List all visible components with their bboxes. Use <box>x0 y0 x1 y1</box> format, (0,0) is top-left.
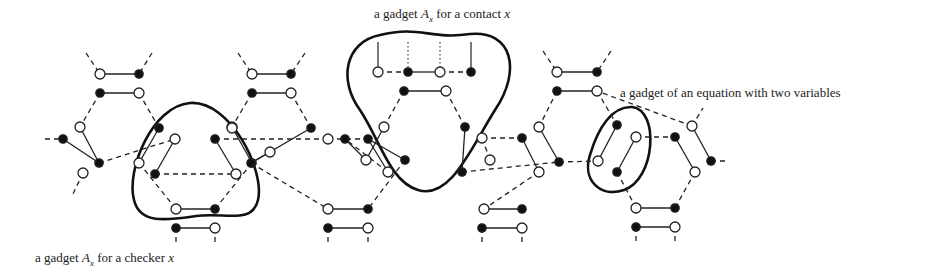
filled-node <box>458 168 466 176</box>
filled-node <box>613 168 621 176</box>
open-node <box>687 121 697 131</box>
filled-node <box>59 135 67 143</box>
dashed-edge <box>232 93 252 127</box>
filled-node <box>248 89 256 97</box>
open-node <box>485 155 495 165</box>
filled-node <box>518 134 526 142</box>
open-node <box>247 69 257 79</box>
variable-symbol: x <box>168 250 174 265</box>
variable-symbol: x <box>504 6 510 21</box>
open-node <box>479 204 489 214</box>
solid-edge <box>155 139 175 174</box>
open-node <box>134 88 144 98</box>
solid-edge <box>63 139 99 163</box>
solid-edge <box>462 127 465 172</box>
solid-edges <box>63 42 711 228</box>
open-node <box>78 168 88 178</box>
open-node <box>534 122 544 132</box>
filled-node <box>671 133 679 141</box>
label-text: a gadget of an equation with two variabl… <box>620 85 841 100</box>
filled-node <box>461 123 469 131</box>
filled-node <box>324 224 332 232</box>
dashed-edge <box>446 91 465 127</box>
checker-loop <box>133 103 259 219</box>
filled-node <box>467 68 475 76</box>
filled-node <box>400 87 408 95</box>
label-text: for a contact <box>433 6 504 21</box>
open-node <box>379 122 389 132</box>
equation-loop <box>588 107 650 192</box>
gadget-symbol: A <box>421 6 429 21</box>
gadget-loops <box>133 31 651 219</box>
filled-node <box>307 124 315 132</box>
open-node <box>210 223 220 233</box>
filled-node <box>341 135 349 143</box>
filled-node <box>211 205 219 213</box>
dashed-edge <box>384 91 404 127</box>
filled-node <box>518 205 526 213</box>
dashed-edge <box>291 93 311 128</box>
filled-node <box>555 158 563 166</box>
dashed-edge <box>539 91 557 127</box>
dashed-edge <box>484 172 539 209</box>
open-node <box>265 147 275 157</box>
solid-edge <box>539 127 559 162</box>
gadget-diagram <box>0 0 951 278</box>
label-text: a gadget <box>35 250 82 265</box>
filled-node <box>632 223 640 231</box>
filled-node <box>135 70 143 78</box>
dashed-edge <box>462 162 559 172</box>
open-node <box>670 222 680 232</box>
filled-node <box>287 70 295 78</box>
filled-node <box>593 68 601 76</box>
dashed-edges <box>45 42 728 245</box>
label-contact-gadget: a gadget Ax for a contact x <box>374 6 510 24</box>
filled-node <box>613 121 621 129</box>
open-node <box>170 134 180 144</box>
open-node <box>534 167 544 177</box>
open-node <box>171 204 181 214</box>
filled-node <box>404 68 412 76</box>
open-node <box>361 155 371 165</box>
open-node <box>631 203 641 213</box>
gadget-symbol: A <box>82 250 90 265</box>
filled-node <box>364 135 372 143</box>
filled-node <box>553 87 561 95</box>
dashed-edge <box>251 163 328 209</box>
dashed-edge <box>675 172 695 208</box>
label-text: for a checker <box>94 250 168 265</box>
open-node <box>134 158 144 168</box>
open-node <box>690 167 700 177</box>
filled-node <box>247 159 255 167</box>
filled-node <box>96 89 104 97</box>
open-node <box>373 67 383 77</box>
solid-edge <box>617 137 636 172</box>
open-node <box>552 67 562 77</box>
solid-edge <box>692 126 711 161</box>
open-node <box>323 204 333 214</box>
filled-node <box>95 159 103 167</box>
open-node <box>227 123 237 133</box>
label-checker-gadget: a gadget Ax for a checker x <box>35 250 174 268</box>
open-node <box>323 134 333 144</box>
open-node <box>363 223 373 233</box>
solid-edge <box>215 139 236 174</box>
open-node <box>477 133 487 143</box>
open-node <box>631 132 641 142</box>
open-node <box>592 86 602 96</box>
solid-edge <box>80 127 99 163</box>
label-text: a gadget <box>374 6 421 21</box>
solid-edge <box>675 137 695 172</box>
filled-node <box>151 170 159 178</box>
label-equation-gadget: a gadget of an equation with two variabl… <box>620 85 841 101</box>
filled-node <box>707 157 715 165</box>
open-node <box>231 169 241 179</box>
filled-node <box>401 156 409 164</box>
open-node <box>593 156 603 166</box>
contact-loop <box>347 31 510 191</box>
open-node <box>435 67 445 77</box>
open-node <box>517 223 527 233</box>
solid-edge <box>522 138 539 172</box>
filled-node <box>478 224 486 232</box>
filled-node <box>155 124 163 132</box>
